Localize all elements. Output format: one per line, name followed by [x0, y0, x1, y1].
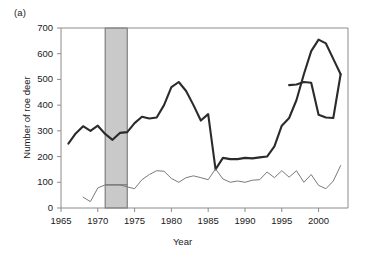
x-axis-tick-label: 2000 — [299, 215, 339, 226]
x-axis-tick-label: 1985 — [188, 215, 228, 226]
x-axis-tick-label: 1965 — [41, 215, 81, 226]
x-axis-tick-label: 1995 — [262, 215, 302, 226]
y-axis-title: Number of roe deer — [21, 43, 32, 193]
y-axis-tick-label: 400 — [0, 99, 53, 110]
y-axis-tick-label: 100 — [0, 176, 53, 187]
x-axis-tick-label: 1970 — [78, 215, 118, 226]
y-axis-tick-label: 500 — [0, 73, 53, 84]
x-axis-tick-label: 1980 — [151, 215, 191, 226]
highlight-band-layer — [105, 28, 127, 208]
x-axis-tick-label: 1990 — [225, 215, 265, 226]
y-axis-tick-label: 700 — [0, 22, 53, 33]
highlight-band — [105, 28, 127, 208]
figure-panel-a: (a) Number of roe deer Year 010020030040… — [0, 0, 365, 259]
x-axis-tick-label: 1975 — [115, 215, 155, 226]
y-axis-tick-label: 200 — [0, 151, 53, 162]
x-axis-title: Year — [0, 236, 365, 247]
y-axis-tick-label: 300 — [0, 125, 53, 136]
y-axis-tick-label: 0 — [0, 202, 53, 213]
panel-label: (a) — [14, 7, 26, 18]
y-axis-tick-label: 600 — [0, 48, 53, 59]
